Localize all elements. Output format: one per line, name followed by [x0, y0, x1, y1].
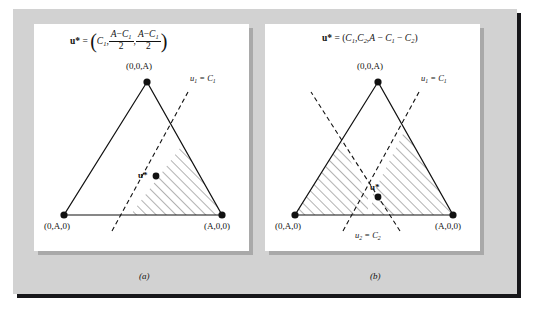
panel-b-formula-term3-b-sub: 1 — [392, 37, 395, 44]
panel-b-vertex-dot-bottom-right — [449, 211, 456, 218]
figure-root: u* = (C1,A−C12,A−C12) (0,0,A) (0,A,0) (A… — [0, 0, 533, 315]
panel-b-u2-label-eq: = — [364, 230, 370, 240]
panel-a-frac2-den: 2 — [136, 42, 161, 52]
panel-b-optimum-label: u* — [370, 183, 380, 192]
panel-b-formula-term3-minus2: − — [397, 33, 402, 43]
panel-b-vertex-label-apex: (0,0,A) — [357, 62, 383, 71]
panel-a-formula-open-paren: ( — [90, 32, 97, 50]
panel-b-u1-label-eq: = — [430, 73, 436, 83]
panel-a-frac1-den: 2 — [109, 42, 134, 52]
panel-a-u1-label-c-sub: 1 — [213, 78, 216, 84]
panel-a-frac1-num-b-sub: 1 — [128, 33, 131, 40]
panel-b-caption: (b) — [370, 272, 381, 281]
panel-b-formula-term3-minus1: − — [377, 33, 382, 43]
panel-b-dashed-line-label-u1: u1 = C1 — [421, 74, 447, 84]
panel-b-u2-label-sub: 2 — [359, 235, 362, 241]
panel-a-diagram — [60, 40, 280, 300]
panel-a-formula-equals: = — [82, 36, 87, 46]
panel-b-formula-term3-a: A — [369, 33, 375, 43]
panel-b-formula-lhs: u* — [322, 33, 332, 43]
panel-a-formula-fraction-2: A−C12 — [136, 30, 161, 52]
panel-a-formula: u* = (C1,A−C12,A−C12) — [70, 31, 167, 53]
panel-b-vertex-dot-apex — [374, 78, 381, 85]
panel-b-diagram — [240, 78, 520, 300]
panel-b-optimum-dot — [375, 194, 382, 201]
panel-a-u1-label-sub: 1 — [194, 78, 197, 84]
panel-a-dashed-line-label-u1: u1 = C1 — [190, 74, 216, 84]
panel-a-vertex-dot-apex — [143, 78, 150, 85]
panel-a-u1-label-eq: = — [199, 73, 205, 83]
panel-a-vertex-dot-bottom-left — [60, 211, 67, 218]
panel-b-vertex-dot-bottom-left — [291, 211, 298, 218]
panel-a-vertex-dot-bottom-right — [218, 211, 225, 218]
panel-a-vertex-label-bottom-right: (A,0,0) — [204, 222, 230, 231]
panel-b-u2-label-c-sub: 2 — [378, 235, 381, 241]
panel-a-vertex-label-bottom-left: (0,A,0) — [44, 222, 70, 231]
panel-b-vertex-label-bottom-left: (0,A,0) — [275, 222, 301, 231]
panel-b-vertex-label-bottom-right: (A,0,0) — [435, 222, 461, 231]
panel-b-formula: u* = (C1,C2,A − C1 − C2) — [322, 34, 418, 44]
panel-a-formula-lhs: u* — [70, 36, 80, 46]
panel-b-u1-label-sub: 1 — [425, 78, 428, 84]
panel-a-optimum-label: u* — [138, 171, 148, 180]
panel-b-u1-label-c-sub: 1 — [444, 78, 447, 84]
panel-a-caption: (a) — [139, 272, 150, 281]
panel-a-vertex-label-apex: (0,0,A) — [126, 62, 152, 71]
panel-a-optimum-dot — [153, 173, 160, 180]
panel-a-formula-close-paren: ) — [161, 32, 168, 50]
panel-b-hatched-region-right — [372, 100, 520, 300]
panel-b-formula-close-paren: ) — [414, 33, 417, 43]
panel-b-dashed-line-label-u2: u2 = C2 — [355, 231, 381, 241]
panel-b-formula-equals: = — [334, 33, 339, 43]
panel-a-formula-fraction-1: A−C12 — [109, 30, 134, 52]
panel-a-frac2-num-b-sub: 1 — [155, 33, 158, 40]
